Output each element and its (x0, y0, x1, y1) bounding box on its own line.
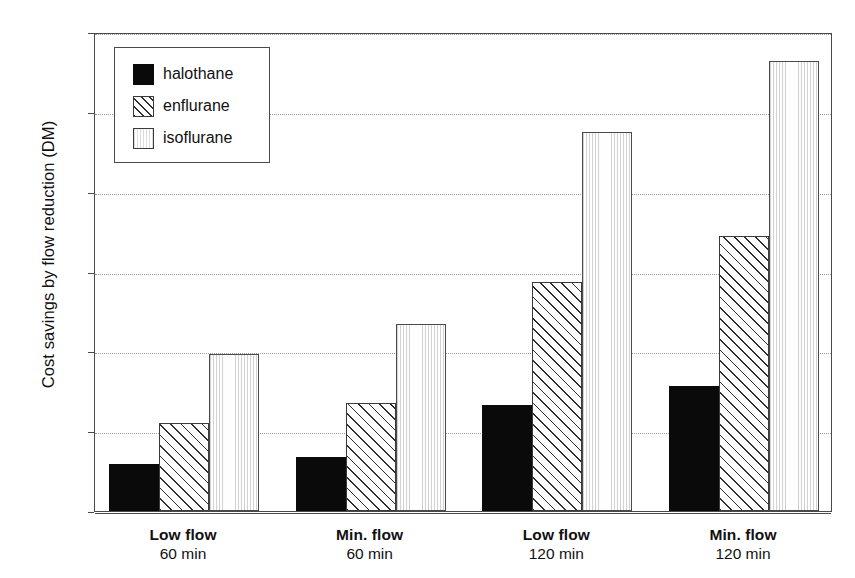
legend-swatch-isoflurane-icon (133, 128, 154, 149)
legend-label-isoflurane: isoflurane (163, 129, 232, 147)
x-group-label-1: Low flow60 min (88, 525, 278, 564)
y-tick-mark-15 (88, 273, 94, 274)
bar-enflurane-group-2 (346, 403, 396, 511)
x-group-label-2: Min. flow60 min (275, 525, 465, 564)
x-group-label-1-primary: Low flow (88, 525, 278, 544)
x-group-label-3-primary: Low flow (461, 525, 651, 544)
bar-isoflurane-group-4 (769, 61, 819, 511)
y-tick-mark-10 (88, 352, 94, 353)
legend-item-enflurane: enflurane (133, 90, 269, 122)
y-tick-mark-25 (88, 113, 94, 114)
legend-item-isoflurane: isoflurane (133, 122, 269, 154)
legend-label-halothane: halothane (163, 65, 233, 83)
bar-chart-figure: Cost savings by flow reduction (DM) 0510… (0, 0, 855, 578)
bar-enflurane-group-1 (159, 423, 209, 511)
x-group-label-4: Min. flow120 min (648, 525, 838, 564)
bar-isoflurane-group-2 (396, 324, 446, 511)
chart-legend: halothane enflurane isoflurane (114, 47, 270, 163)
x-group-label-2-primary: Min. flow (275, 525, 465, 544)
y-tick-mark-0 (88, 512, 94, 513)
y-tick-mark-5 (88, 432, 94, 433)
x-group-label-4-secondary: 120 min (648, 544, 838, 563)
bar-enflurane-group-4 (719, 236, 769, 511)
legend-label-enflurane: enflurane (163, 97, 230, 115)
legend-item-halothane: halothane (133, 58, 269, 90)
x-group-label-3: Low flow120 min (461, 525, 651, 564)
bar-enflurane-group-3 (532, 282, 582, 511)
bar-isoflurane-group-1 (209, 354, 259, 511)
bar-halothane-group-2 (296, 457, 346, 511)
x-group-label-1-secondary: 60 min (88, 544, 278, 563)
legend-swatch-enflurane-icon (133, 96, 154, 117)
gridline-20 (95, 194, 831, 195)
y-tick-mark-30 (88, 33, 94, 34)
legend-swatch-halothane-icon (133, 64, 154, 85)
y-tick-mark-20 (88, 193, 94, 194)
gridline-30 (95, 34, 831, 35)
bar-isoflurane-group-3 (582, 132, 632, 511)
bar-halothane-group-3 (482, 405, 532, 511)
y-axis-title: Cost savings by flow reduction (DM) (39, 25, 58, 485)
bar-halothane-group-1 (109, 464, 159, 511)
x-group-label-2-secondary: 60 min (275, 544, 465, 563)
gridline-0 (95, 513, 831, 514)
x-group-label-3-secondary: 120 min (461, 544, 651, 563)
bar-halothane-group-4 (669, 386, 719, 511)
x-group-label-4-primary: Min. flow (648, 525, 838, 544)
